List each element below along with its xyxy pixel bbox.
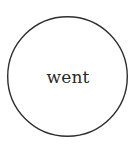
node-label: went — [8, 16, 128, 138]
